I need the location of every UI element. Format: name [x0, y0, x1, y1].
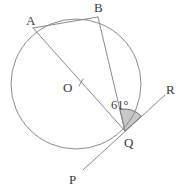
- label-point-o: O: [63, 80, 72, 95]
- chord-ab: [33, 17, 98, 28]
- label-point-b: B: [94, 0, 103, 15]
- diameter-aq: [33, 28, 125, 131]
- label-point-r: R: [166, 82, 175, 97]
- geometry-canvas: A B O Q P R 61°: [0, 0, 184, 188]
- chord-bq: [98, 17, 125, 131]
- label-point-q: Q: [124, 135, 134, 150]
- geometry-figure: A B O Q P R 61°: [0, 0, 184, 188]
- circle-outline: [11, 19, 141, 149]
- label-point-p: P: [69, 172, 76, 187]
- angle-measure-label: 61°: [111, 98, 129, 112]
- label-point-a: A: [26, 13, 36, 28]
